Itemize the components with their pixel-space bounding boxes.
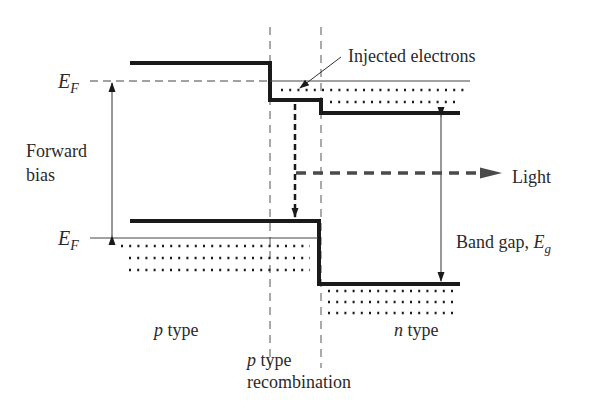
fermi-level-bottom-label: EF	[57, 227, 79, 253]
n-type-label: n type	[394, 320, 439, 340]
valence-band-edge	[130, 221, 460, 284]
p-type-recombination-label-line1: p type	[245, 350, 292, 370]
band-diagram: EF EF Forward bias Injected electrons Li…	[0, 0, 611, 420]
injected-electrons-label: Injected electrons	[348, 46, 475, 66]
band-gap-label: Band gap, Eg	[456, 232, 551, 256]
p-type-recombination-label-line2: recombination	[247, 372, 351, 392]
forward-bias-label-line1: Forward	[26, 141, 87, 161]
fermi-level-top-label: EF	[57, 70, 79, 96]
forward-bias-label-line2: bias	[26, 165, 55, 185]
p-type-label: p type	[152, 320, 199, 340]
light-label: Light	[512, 167, 551, 187]
